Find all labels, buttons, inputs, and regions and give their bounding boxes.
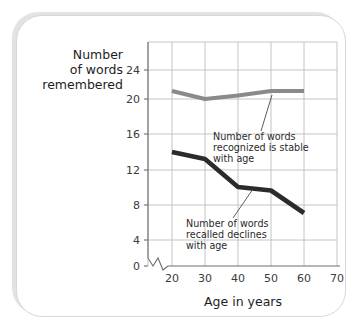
- y-tick-label-4: 4: [133, 234, 140, 247]
- x-tick-label-20: 20: [165, 272, 179, 285]
- recognized-annotation-line-2: recognized is stable: [213, 142, 309, 153]
- leader-line-recognized: [261, 95, 272, 131]
- x-tick-label-40: 40: [231, 272, 245, 285]
- y-axis-break-symbol: [148, 258, 172, 270]
- y-axis-title-line-1: Number: [73, 47, 124, 62]
- y-axis-title-line-3: remembered: [42, 77, 123, 92]
- figure-root: 0 4 8 12 16 20 24 20 30 40 50 60 70: [0, 0, 364, 336]
- y-tick-label-0: 0: [133, 260, 140, 273]
- recalled-annotation-line-2: recalled declines: [186, 229, 267, 240]
- recognized-annotation: Number of words recognized is stable wit…: [213, 131, 309, 164]
- y-tick-label-20: 20: [126, 93, 140, 106]
- y-axis-title-line-2: of words: [70, 62, 123, 77]
- x-tick-label-50: 50: [264, 272, 278, 285]
- recalled-annotation-line-3: with age: [186, 240, 227, 251]
- x-axis-title: Age in years: [204, 294, 282, 309]
- recognized-annotation-line-1: Number of words: [213, 131, 295, 142]
- x-tick-labels: 20 30 40 50 60 70: [165, 272, 344, 285]
- leader-line-recalled: [233, 189, 253, 218]
- y-tick-label-8: 8: [133, 199, 140, 212]
- line-chart: 0 4 8 12 16 20 24 20 30 40 50 60 70: [0, 0, 364, 336]
- x-tick-label-70: 70: [330, 272, 344, 285]
- x-tick-label-60: 60: [297, 272, 311, 285]
- y-axis-title: Number of words remembered: [42, 47, 124, 92]
- y-tick-label-12: 12: [126, 164, 140, 177]
- x-tick-label-30: 30: [198, 272, 212, 285]
- y-tick-label-24: 24: [126, 64, 140, 77]
- recalled-annotation: Number of words recalled declines with a…: [186, 218, 268, 251]
- recalled-annotation-line-1: Number of words: [186, 218, 268, 229]
- y-tick-labels: 0 4 8 12 16 20 24: [126, 64, 140, 273]
- y-tick-label-16: 16: [126, 128, 140, 141]
- recognized-annotation-line-3: with age: [213, 153, 254, 164]
